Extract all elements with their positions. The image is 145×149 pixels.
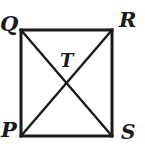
intersection-label-t: T <box>60 52 73 70</box>
geometry-figure: Q R P S T <box>0 0 145 149</box>
vertex-label-r: R <box>119 9 136 30</box>
rectangle-diagonals <box>21 30 112 136</box>
vertex-label-p: P <box>1 119 17 140</box>
vertex-label-s: S <box>121 122 135 142</box>
vertex-label-q: Q <box>0 13 18 34</box>
